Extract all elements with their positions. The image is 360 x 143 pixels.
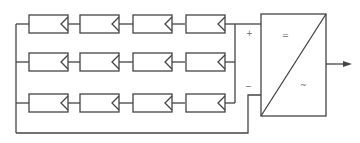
arrow-right-icon	[343, 61, 352, 67]
pv-module-icon	[29, 94, 68, 112]
pv-module-icon	[80, 15, 119, 33]
pv-module-icon	[186, 15, 225, 33]
pv-module-icon	[133, 94, 172, 112]
pv-module-icon	[29, 15, 68, 33]
pv-module-icon	[80, 94, 119, 112]
ac-label: ~	[300, 81, 307, 90]
positive-terminal-label: +	[246, 29, 253, 38]
pv-module-icon	[186, 53, 225, 71]
pv-row-1	[16, 15, 235, 33]
inverter-block: = ~	[261, 14, 326, 116]
pv-row-2	[16, 53, 235, 71]
pv-module-icon	[29, 53, 68, 71]
pv-module-icon	[186, 94, 225, 112]
pv-module-icon	[133, 53, 172, 71]
pv-row-3	[16, 94, 235, 112]
negative-return-line	[16, 95, 261, 133]
pv-system-diagram: + − = ~	[0, 0, 360, 143]
negative-terminal-label: −	[245, 82, 252, 91]
dc-label: =	[282, 31, 289, 40]
pv-module-icon	[133, 15, 172, 33]
pv-module-icon	[80, 53, 119, 71]
